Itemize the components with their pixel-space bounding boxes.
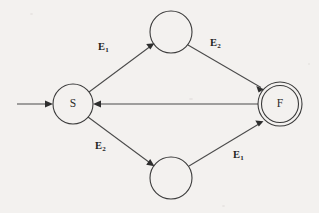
diagram-canvas: S F E1 E2 E2 E1 [0,0,319,213]
node-s[interactable]: S [53,84,93,124]
edge-label-text: E [233,149,240,160]
edge-label-subscript: 1 [105,46,109,54]
edge-label-s-to-top: E1 [98,42,109,53]
edge-label-subscript: 2 [102,145,106,153]
node-top[interactable] [150,11,192,53]
node-bottom[interactable] [150,157,192,199]
edge-label-text: E [210,37,217,48]
edge-f-to-s [93,101,258,108]
edge-label-subscript: 1 [240,154,244,162]
edge-start-to-s [17,101,53,108]
node-f[interactable]: F [258,82,302,126]
edge-top-to-f [188,45,264,93]
node-f-label: F [277,97,283,109]
edge-label-s-to-bottom: E2 [95,141,106,152]
edge-label-bottom-to-f: E1 [233,150,244,161]
diagram-svg: S F [0,0,319,213]
edge-label-text: E [95,140,102,151]
edge-bottom-to-f [189,121,264,166]
node-s-label: S [70,97,76,109]
edge-label-text: E [98,41,105,52]
edge-label-top-to-f: E2 [210,38,221,49]
edge-label-subscript: 2 [217,42,221,50]
